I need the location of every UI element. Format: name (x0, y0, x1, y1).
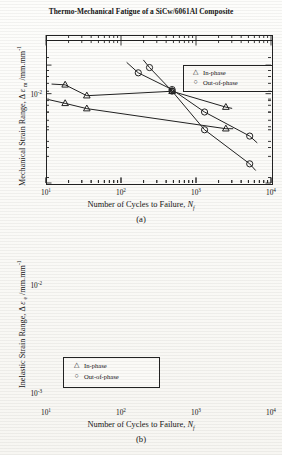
x-tick-label-b-0: 101 (41, 407, 51, 417)
y-tick-label-b-0: 10-2 (12, 280, 42, 290)
y-axis-title-b-text: Inelastic Strain Range, (18, 312, 27, 388)
legend-b: △ In-phase ○ Out-of-phase (63, 357, 160, 388)
x-axis-title-b: Number of Cycles to Failure, Nf (0, 420, 282, 431)
y-axis-exponent-b: -1 (16, 260, 22, 265)
x-axis-subscript-b: f (193, 425, 195, 431)
x-tick-label-b-2: 103 (191, 407, 201, 417)
panel-caption-b: (b) (0, 434, 282, 444)
legend-b-label-1: Out-of-phase (84, 373, 119, 380)
delta-symbol-b: Δ (18, 305, 27, 312)
legend-b-label-0: In-phase (84, 362, 107, 369)
y-axis-subscript-b: e (22, 297, 28, 299)
triangle-marker-icon: △ (71, 362, 82, 369)
y-tick-label-b-1: 10-3 (12, 388, 42, 398)
figure-page: Thermo-Mechanical Fatigue of a SiCw/6061… (0, 0, 282, 455)
x-axis-title-b-text: Number of Cycles to Failure, (87, 420, 187, 429)
epsilon-symbol-b: ε (18, 299, 27, 304)
legend-b-item-0[interactable]: △ In-phase (71, 362, 107, 369)
x-tick-label-b-3: 104 (266, 407, 276, 417)
x-tick-label-b-1: 102 (116, 407, 126, 417)
circle-marker-icon: ○ (71, 373, 82, 380)
legend-b-item-1[interactable]: ○ Out-of-phase (71, 373, 119, 380)
